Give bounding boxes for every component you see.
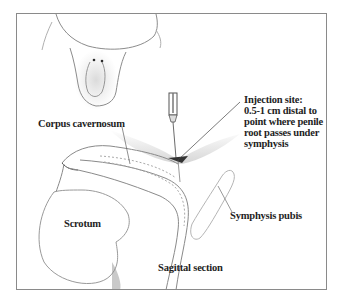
scrotum-label: Scrotum — [64, 218, 101, 229]
injection-site-line-3: point where penile — [244, 116, 338, 127]
injection-site-line-1: Injection site: — [244, 94, 338, 105]
sagittal-section-label: Sagittal section — [158, 262, 223, 273]
injection-site-label: Injection site: 0.5-1 cm distal to point… — [244, 94, 338, 149]
injection-site-line-5: symphysis — [244, 138, 338, 149]
frontal-view-drawing — [42, 14, 161, 110]
syringe-icon — [169, 93, 177, 158]
anatomical-illustration — [0, 0, 338, 303]
corpus-cavernosum-label: Corpus cavernosum — [38, 118, 125, 129]
injection-site-line-4: root passes under — [244, 127, 338, 138]
corpus-cavernosum-leader — [122, 127, 130, 164]
injection-site-line-2: 0.5-1 cm distal to — [244, 105, 338, 116]
symphysis-pubis-label: Symphysis pubis — [230, 210, 302, 221]
